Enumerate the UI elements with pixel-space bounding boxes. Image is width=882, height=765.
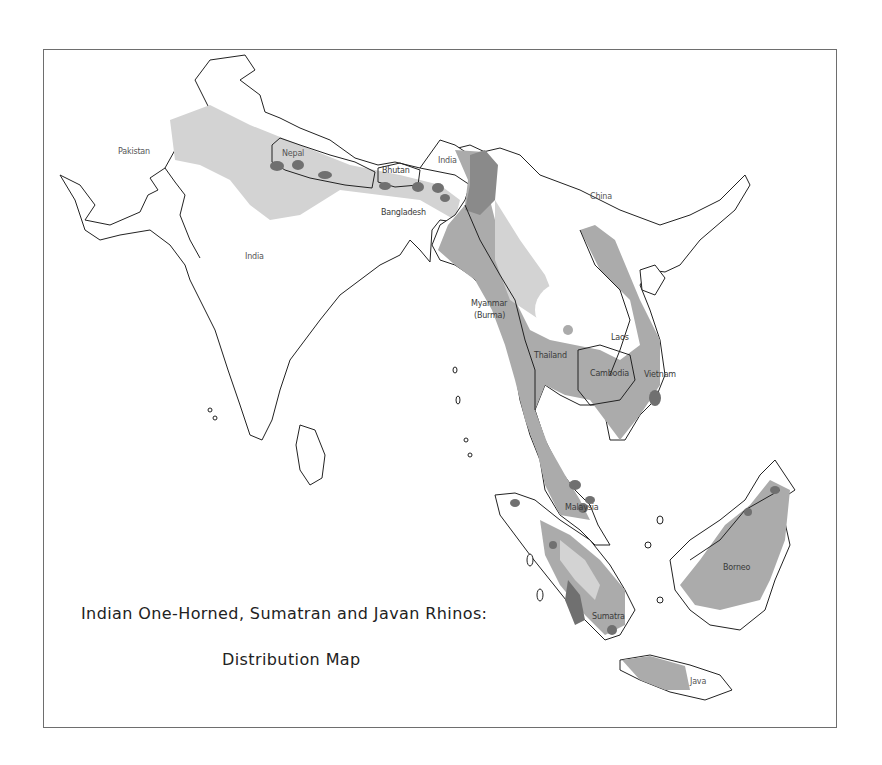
label-nepal: Nepal: [282, 149, 304, 158]
label-sumatra: Sumatra: [592, 612, 625, 621]
label-java: Java: [690, 677, 706, 686]
label-myanmar: Myanmar: [471, 299, 507, 308]
map-subtitle: Distribution Map: [222, 650, 361, 669]
label-burma: (Burma): [474, 311, 505, 320]
label-laos: Laos: [611, 333, 629, 342]
india-landmass: [60, 55, 495, 440]
label-india-main: India: [245, 252, 264, 261]
label-malaysia: Malaysia: [565, 503, 598, 512]
distribution-map: [0, 0, 882, 765]
label-vietnam: Vietnam: [644, 370, 676, 379]
label-thailand: Thailand: [534, 351, 567, 360]
label-borneo: Borneo: [723, 563, 750, 572]
label-pakistan: Pakistan: [118, 147, 150, 156]
sri-lanka: [296, 425, 325, 485]
map-title: Indian One-Horned, Sumatran and Javan Rh…: [81, 604, 487, 623]
label-cambodia: Cambodia: [590, 369, 629, 378]
label-bangladesh: Bangladesh: [381, 208, 426, 217]
label-india-northeast: India: [438, 156, 457, 165]
label-china: China: [590, 192, 612, 201]
label-bhutan: Bhutan: [382, 166, 410, 175]
